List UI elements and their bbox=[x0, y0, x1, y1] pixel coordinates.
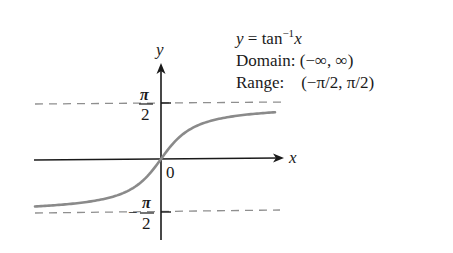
domain-value: (−∞, ∞) bbox=[296, 51, 354, 70]
eq-sup: −1 bbox=[282, 27, 294, 39]
lower-pi-label: π bbox=[142, 194, 152, 211]
range-value: (−π/2, π/2) bbox=[284, 73, 374, 92]
eq-rhs: x bbox=[294, 29, 302, 48]
lower-asymptote bbox=[35, 210, 280, 213]
upper-asymptote bbox=[35, 102, 285, 104]
x-axis bbox=[34, 158, 278, 160]
x-axis-label: x bbox=[288, 148, 297, 167]
domain-line: Domain: (−∞, ∞) bbox=[236, 50, 374, 72]
domain-label: Domain: bbox=[236, 51, 296, 70]
lower-minus-label: − bbox=[128, 203, 138, 222]
y-axis-label: y bbox=[154, 40, 164, 59]
upper-pi-label: π bbox=[140, 86, 150, 103]
origin-label: 0 bbox=[166, 163, 175, 182]
upper-two-label: 2 bbox=[141, 105, 150, 124]
eq-mid: = tan bbox=[244, 29, 283, 48]
lower-two-label: 2 bbox=[142, 214, 151, 233]
range-label: Range: bbox=[236, 73, 284, 92]
eq-lhs: y bbox=[236, 29, 244, 48]
range-line: Range: (−π/2, π/2) bbox=[236, 72, 374, 94]
function-info: y = tan−1x Domain: (−∞, ∞) Range: (−π/2,… bbox=[236, 22, 374, 94]
arctan-graph: y x 0 π 2 − π 2 bbox=[0, 0, 453, 253]
equation: y = tan−1x bbox=[236, 22, 374, 50]
